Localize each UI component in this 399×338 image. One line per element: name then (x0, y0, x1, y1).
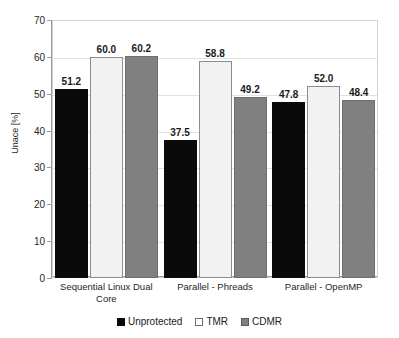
bar-value-label: 58.8 (193, 48, 238, 59)
bar-cdmr-1 (234, 97, 267, 278)
y-tick-label: 70 (1, 15, 45, 26)
y-tick-label: 40 (1, 125, 45, 136)
bar-unprotected-1 (164, 140, 197, 278)
bar-value-label: 48.4 (336, 87, 381, 98)
chart-legend: UnprotectedTMRCDMR (0, 316, 399, 327)
legend-item-label: Unprotected (128, 316, 182, 327)
x-category-label: Sequential Linux Dual Core (52, 281, 161, 305)
legend-item-cdmr[interactable]: CDMR (241, 316, 282, 327)
black-square-icon (117, 318, 125, 326)
bar-unprotected-0 (55, 89, 88, 278)
bar-value-label: 52.0 (301, 73, 346, 84)
legend-item-label: TMR (206, 316, 228, 327)
x-category-label: Parallel - Phreads (161, 281, 270, 293)
bar-value-label: 60.2 (119, 43, 164, 54)
y-axis-ticks: 706050403020100 (0, 20, 45, 278)
bar-value-label: 47.8 (266, 89, 311, 100)
y-tick-label: 20 (1, 199, 45, 210)
y-tick-label: 0 (1, 273, 45, 284)
gray-square-icon (241, 318, 249, 326)
bar-tmr-2 (307, 86, 340, 278)
legend-item-label: CDMR (252, 316, 282, 327)
y-tick-label: 50 (1, 88, 45, 99)
legend-item-unprotected[interactable]: Unprotected (117, 316, 182, 327)
bar-value-label: 51.2 (49, 76, 94, 87)
y-tick-label: 30 (1, 162, 45, 173)
white-square-icon (195, 318, 203, 326)
bar-unprotected-2 (272, 102, 305, 278)
bars-layer: 51.260.060.237.558.849.247.852.048.4 (52, 20, 378, 278)
x-axis-category-labels: Sequential Linux Dual CoreParallel - Phr… (52, 281, 378, 311)
y-tick-label: 60 (1, 51, 45, 62)
bar-tmr-0 (90, 57, 123, 278)
y-tick-label: 10 (1, 236, 45, 247)
bar-value-label: 37.5 (158, 127, 203, 138)
legend-item-tmr[interactable]: TMR (195, 316, 228, 327)
bar-cdmr-2 (342, 100, 375, 278)
bar-cdmr-0 (125, 56, 158, 278)
x-category-label: Parallel - OpenMP (269, 281, 378, 293)
bar-chart: Unace [%] 706050403020100 51.260.060.237… (0, 0, 399, 338)
